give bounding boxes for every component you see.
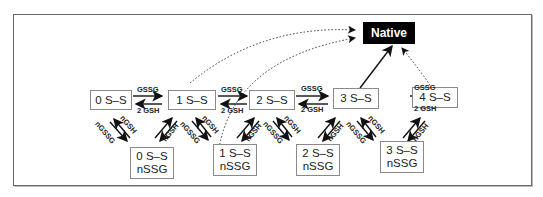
state-label: 2 S–S — [297, 147, 339, 160]
gssg-label: GSSG — [221, 85, 243, 94]
state-label: 3 S–S — [381, 144, 423, 157]
gssg-label: GSSG — [414, 83, 436, 92]
native-state: Native — [363, 22, 415, 44]
state-sublabel: nSSG — [297, 160, 339, 173]
gsh-label: 2 GSH — [137, 106, 160, 115]
state-0ss-nssg: 0 S–S nSSG — [130, 147, 174, 179]
gssg-label: GSSG — [137, 85, 159, 94]
gssg-label: GSSG — [301, 84, 323, 93]
gsh-label: 2 GSH — [414, 104, 437, 113]
state-sublabel: nSSG — [214, 160, 256, 173]
gsh-label: 2 GSH — [221, 106, 244, 115]
state-3ss-nssg: 3 S–S nSSG — [380, 141, 424, 173]
state-sublabel: nSSG — [131, 163, 173, 176]
state-label: 0 S–S — [131, 150, 173, 163]
state-label: 1 S–S — [214, 147, 256, 160]
gsh-label: 2 GSH — [301, 105, 324, 114]
state-0ss: 0 S–S — [90, 90, 132, 110]
state-1ss-nssg: 1 S–S nSSG — [213, 144, 257, 176]
state-2ss: 2 S–S — [249, 90, 295, 110]
state-3ss: 3 S–S — [333, 88, 379, 109]
state-1ss: 1 S–S — [168, 90, 216, 110]
state-sublabel: nSSG — [381, 157, 423, 170]
state-2ss-nssg: 2 S–S nSSG — [296, 144, 340, 176]
